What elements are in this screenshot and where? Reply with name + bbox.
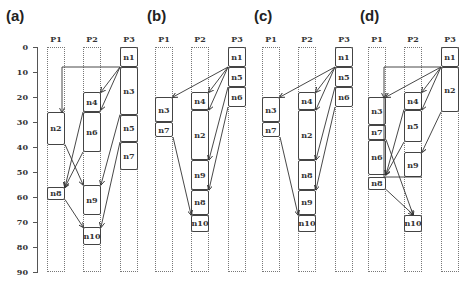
dependency-arrow <box>101 142 120 227</box>
schedule-diagram: 0102030405060708090 (a)P1P2P3n1n3n5n7n4n… <box>0 0 475 285</box>
dependency-arrow <box>173 67 228 97</box>
dependency-arrow <box>280 67 335 97</box>
dependency-arrow <box>173 137 191 215</box>
dependency-arrow <box>65 200 83 228</box>
dependency-arrow <box>280 137 298 215</box>
dependency-arrows <box>0 0 475 285</box>
dependency-arrow <box>422 112 441 152</box>
dependency-arrow <box>101 115 120 185</box>
dependency-arrow <box>65 152 83 187</box>
dependency-arrow <box>386 67 441 97</box>
